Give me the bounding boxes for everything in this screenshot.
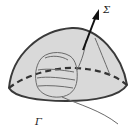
- surface-diagram: [0, 0, 135, 135]
- boundary-label-gamma: Γ: [35, 117, 42, 127]
- surface-sigma: [9, 28, 127, 101]
- surface-label-sigma: Σ: [103, 5, 110, 15]
